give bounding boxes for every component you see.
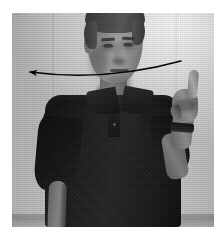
shirt-button-lower	[113, 123, 116, 126]
eyebrow-right	[122, 37, 135, 41]
cheek-shadow	[90, 47, 108, 77]
eye-left	[103, 44, 113, 48]
eye-right	[123, 43, 133, 47]
mouth	[110, 69, 129, 72]
hair-side-left	[84, 21, 97, 49]
nose-shadow	[112, 58, 125, 65]
left-arm-shadow	[62, 183, 70, 227]
subject-person	[12, 13, 214, 227]
knuckles-shadow	[174, 99, 196, 112]
photograph	[12, 13, 214, 227]
hair-side-right	[132, 19, 145, 45]
chin-shadow	[104, 75, 132, 85]
figure-root	[0, 0, 224, 237]
index-finger	[187, 70, 199, 99]
